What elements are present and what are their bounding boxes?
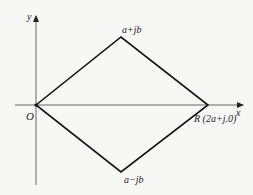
vertex-top-label: a+jb [122,25,142,35]
vertex-right-label: R (2a+j.0) [194,114,236,124]
vertex-bottom-label: a−jb [124,175,144,185]
x-axis-label: x [236,108,240,118]
y-axis-label: y [27,12,31,22]
rhombus-shape [36,37,208,172]
origin-point [34,103,37,106]
diagram-canvas: y x O a+jb R (2a+j.0) a−jb [0,0,253,195]
origin-label: O [26,111,34,122]
